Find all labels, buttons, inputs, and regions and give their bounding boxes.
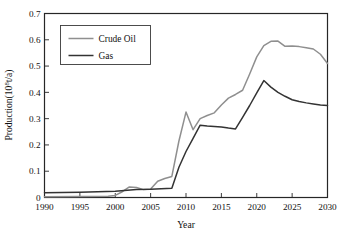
y-tick-label: 0.5 [29, 61, 41, 71]
production-line-chart: 00.10.20.30.40.50.60.7 19901995200020052… [0, 0, 339, 238]
y-axis-title-base: Production(10 [3, 85, 15, 140]
y-tick-label: 0.6 [29, 35, 41, 45]
x-axis-title: Year [177, 219, 195, 230]
y-tick-label: 0.1 [29, 166, 41, 176]
y-tick-label: 0.7 [29, 9, 41, 19]
x-tick-label: 2005 [141, 202, 160, 212]
x-tick-label: 2000 [106, 202, 125, 212]
x-tick-label: 2030 [318, 202, 337, 212]
legend-label-gas: Gas [99, 51, 114, 61]
y-tick-label: 0.4 [29, 88, 41, 98]
y-axis-title-text: Production(108t/a) [3, 70, 15, 141]
y-axis-title: Production(108t/a) [3, 70, 15, 141]
x-tick-label: 2010 [177, 202, 196, 212]
x-tick-label: 1995 [71, 202, 90, 212]
x-tick-label: 2020 [248, 202, 267, 212]
x-tick-label: 1990 [35, 202, 54, 212]
x-tick-label: 2015 [212, 202, 231, 212]
chart-legend: Crude OilGas [61, 26, 151, 65]
chart-figure: 00.10.20.30.40.50.60.7 19901995200020052… [0, 0, 339, 238]
x-tick-label: 2025 [283, 202, 302, 212]
y-tick-label: 0.3 [29, 114, 41, 124]
y-tick-label: 0.2 [29, 140, 41, 150]
x-axis-tick-labels: 199019952000200520102015202020252030 [35, 202, 337, 212]
legend-label-crude-oil: Crude Oil [99, 34, 137, 44]
y-axis-title-tail: t/a) [3, 70, 15, 83]
